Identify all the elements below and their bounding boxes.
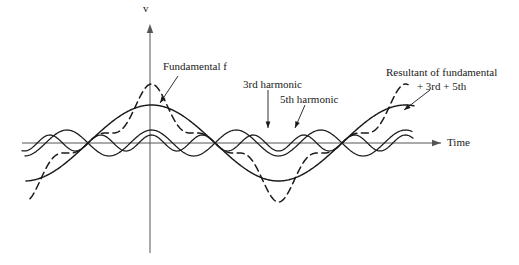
x-axis-label: Time — [447, 136, 470, 150]
annotation-third-harmonic: 3rd harmonic — [243, 78, 302, 92]
figure-harmonic-waveforms: v Time Fundamental f 3rd harmonic 5th ha… — [0, 0, 519, 265]
annotation-fundamental-symbol: f — [223, 60, 227, 72]
annotation-resultant-line2: + 3rd + 5th — [386, 80, 497, 94]
y-axis-label: v — [143, 2, 149, 16]
annotation-fundamental-text: Fundamental — [163, 60, 220, 72]
annotation-fifth-harmonic-text: 5th harmonic — [280, 93, 338, 105]
annotation-resultant: Resultant of fundamental + 3rd + 5th — [386, 66, 497, 94]
annotation-third-harmonic-text: 3rd harmonic — [243, 78, 302, 90]
y-axis-label-text: v — [143, 2, 149, 14]
annotation-fifth-harmonic: 5th harmonic — [280, 93, 338, 107]
annotation-resultant-line1: Resultant of fundamental — [386, 66, 497, 78]
waveform-plot — [0, 0, 519, 265]
annotation-fundamental: Fundamental f — [163, 60, 227, 74]
x-axis-label-text: Time — [447, 136, 470, 148]
axes — [22, 24, 441, 253]
